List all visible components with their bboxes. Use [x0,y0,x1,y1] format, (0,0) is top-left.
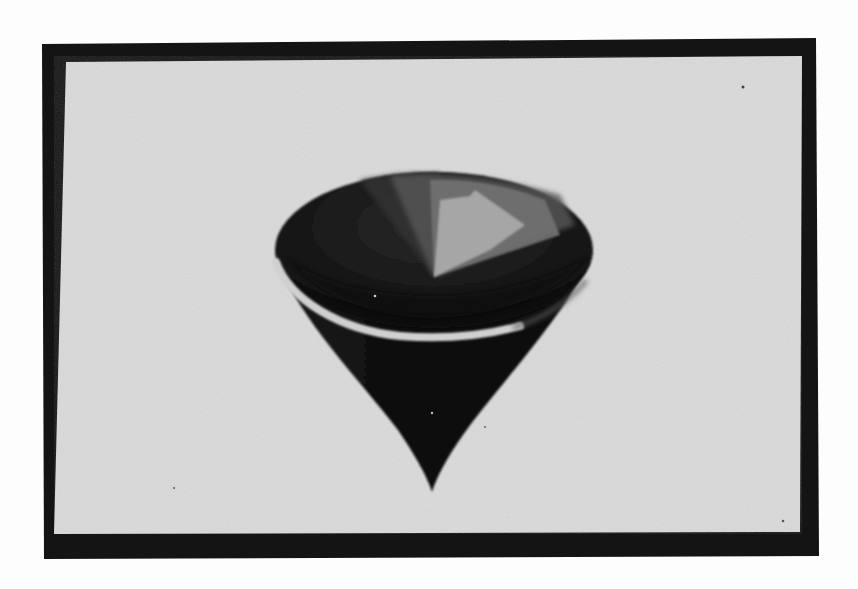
dust-speck [484,426,486,428]
dust-speck [782,520,785,523]
dust-speck [742,86,745,89]
dust-speck [173,487,175,489]
speck [431,412,433,414]
scene-canvas [0,0,858,589]
speck [374,295,377,298]
photo-stage: Photograph of a CRT monitor displaying a… [0,0,858,589]
